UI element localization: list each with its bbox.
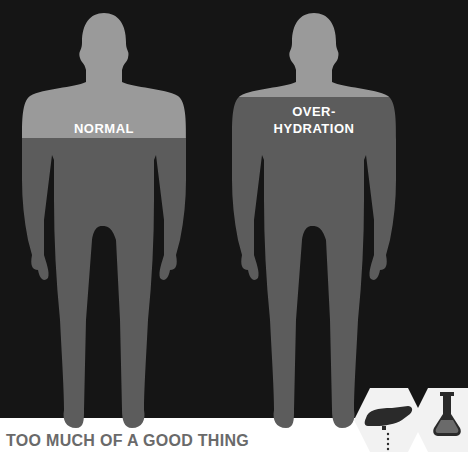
flask-icon <box>412 388 468 452</box>
icon-group <box>352 388 468 452</box>
label-line: NORMAL <box>14 120 194 137</box>
body-silhouette-icon <box>14 0 234 440</box>
label-line: OVER- <box>224 103 404 120</box>
figure-normal: NORMAL <box>14 0 234 440</box>
body-silhouette-icon <box>224 0 444 440</box>
figure-label-over-hydration: OVER- HYDRATION <box>224 103 404 137</box>
figure-over-hydration: OVER- HYDRATION <box>224 0 444 440</box>
label-line: HYDRATION <box>224 120 404 137</box>
figure-label-normal: NORMAL <box>14 120 194 137</box>
headline: TOO MUCH OF A GOOD THING <box>6 432 249 450</box>
